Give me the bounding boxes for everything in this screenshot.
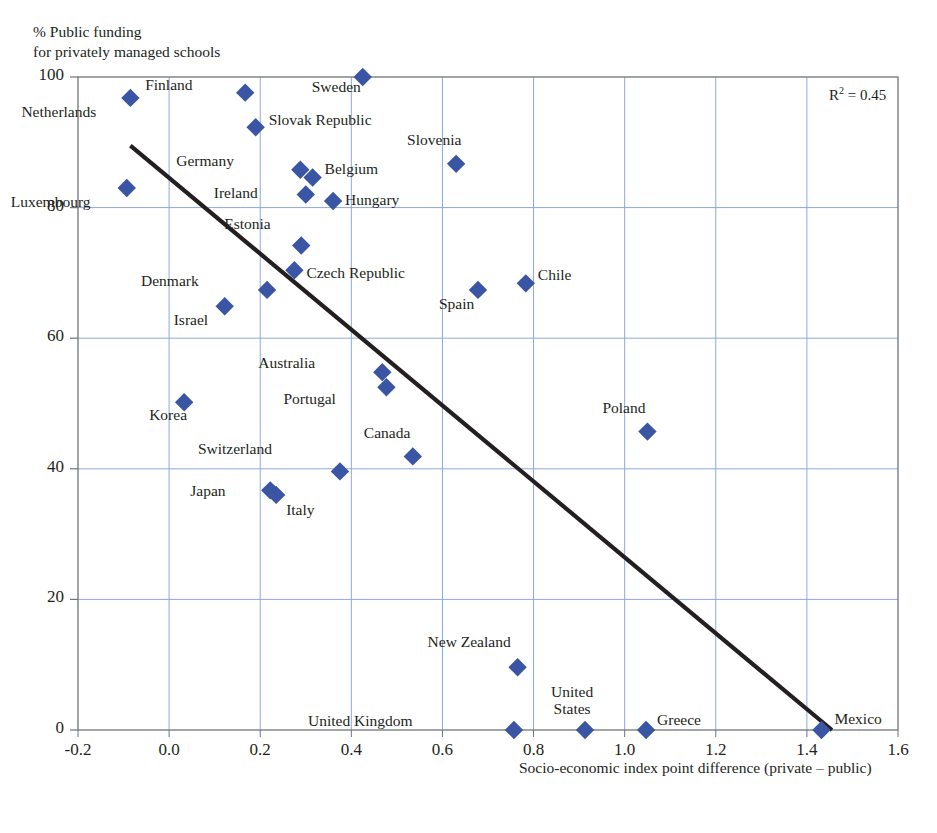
data-point-marker (292, 236, 310, 254)
y-tick-label: 100 (18, 65, 64, 85)
data-point-marker (377, 378, 395, 396)
x-tick-label: 1.0 (595, 740, 655, 760)
data-point-label: United Kingdom (308, 712, 413, 729)
data-point-label: Israel (174, 311, 208, 328)
x-tick-label: 1.4 (777, 740, 837, 760)
data-point-marker (373, 363, 391, 381)
data-point-label: Mexico (834, 710, 881, 727)
r-squared-annotation: R2 = 0.45 (829, 85, 886, 104)
plot-canvas (0, 0, 937, 833)
data-point-label: Spain (439, 295, 474, 312)
data-point-marker (576, 721, 594, 739)
x-tick-label: -0.2 (48, 740, 108, 760)
data-point-label: Finland (145, 76, 192, 93)
data-point-marker (505, 721, 523, 739)
data-point-label: United States (551, 683, 593, 718)
data-point-label: Japan (190, 482, 225, 499)
x-tick-label: 0.2 (230, 740, 290, 760)
data-point-marker (638, 422, 656, 440)
data-point-label: Poland (602, 399, 645, 416)
data-point-marker (812, 721, 830, 739)
data-point-marker (404, 447, 422, 465)
data-point-label: Slovenia (407, 131, 461, 148)
data-point-marker (297, 185, 315, 203)
x-tick-label: 0.6 (412, 740, 472, 760)
data-point-marker (517, 274, 535, 292)
data-point-label: Italy (286, 501, 314, 518)
y-tick-label: 40 (18, 457, 64, 477)
data-point-label: Korea (149, 406, 187, 423)
x-tick-label: 0.0 (139, 740, 199, 760)
data-point-label: Germany (176, 152, 234, 169)
data-point-marker (246, 118, 264, 136)
data-point-label: New Zealand (428, 633, 511, 650)
scatter-chart: % Public funding for privately managed s… (0, 0, 937, 833)
y-tick-label: 20 (18, 587, 64, 607)
data-point-label: Hungary (345, 191, 399, 208)
x-tick-label: 1.2 (686, 740, 746, 760)
data-point-label: Sweden (312, 78, 361, 95)
data-point-marker (637, 721, 655, 739)
data-point-marker (508, 658, 526, 676)
r-squared-value: = 0.45 (844, 87, 886, 103)
data-point-label: Denmark (141, 272, 199, 289)
r-squared-symbol: R (829, 87, 839, 103)
data-point-label: Greece (657, 711, 701, 728)
data-point-label: Luxembourg (11, 193, 91, 210)
x-axis-title: Socio-economic index point difference (p… (519, 758, 872, 778)
y-tick-label: 60 (18, 326, 64, 346)
data-point-label: Slovak Republic (269, 111, 372, 128)
x-tick-label: 0.4 (321, 740, 381, 760)
data-point-label: Chile (538, 266, 572, 283)
data-point-marker (331, 462, 349, 480)
data-point-marker (215, 297, 233, 315)
data-point-marker (236, 83, 254, 101)
data-point-label: Canada (364, 424, 410, 441)
y-tick-label: 0 (18, 718, 64, 738)
data-point-label: Australia (258, 354, 315, 371)
data-point-label: Estonia (224, 215, 271, 232)
data-point-label: Netherlands (21, 103, 96, 120)
data-point-label: Ireland (214, 184, 258, 201)
data-point-label: Portugal (283, 390, 336, 407)
x-tick-label: 0.8 (504, 740, 564, 760)
data-point-marker (118, 179, 136, 197)
data-point-label: Switzerland (198, 440, 272, 457)
data-point-label: Belgium (325, 160, 378, 177)
data-point-marker (121, 89, 139, 107)
x-tick-label: 1.6 (868, 740, 928, 760)
data-point-marker (447, 155, 465, 173)
data-point-label: Czech Republic (306, 264, 405, 281)
